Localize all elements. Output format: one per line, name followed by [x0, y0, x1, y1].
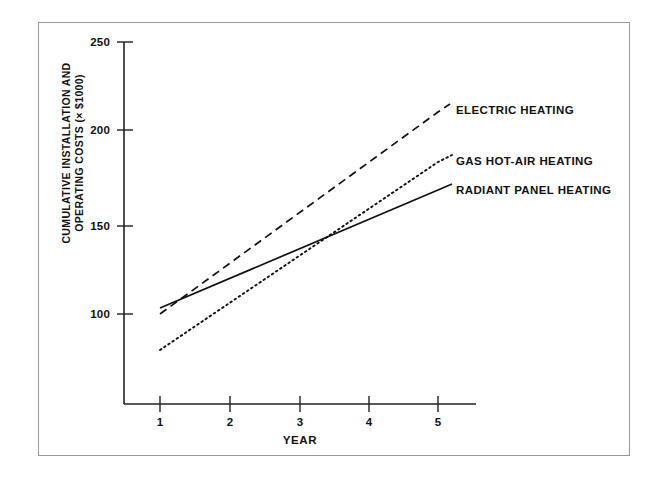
x-tick-label-2: 2	[220, 416, 240, 428]
x-axis-title: YEAR	[250, 434, 350, 446]
x-tick-label-5: 5	[428, 416, 448, 428]
x-tick-label-3: 3	[290, 416, 310, 428]
y-axis-ticks	[117, 42, 133, 314]
series-label-radiant-panel-heating: RADIANT PANEL HEATING	[456, 184, 611, 196]
series-line-electric-heating	[160, 104, 450, 314]
y-axis-title: CUMULATIVE INSTALLATION AND OPERATING CO…	[60, 38, 86, 268]
series-line-radiant-panel-heating	[160, 184, 452, 308]
x-tick-label-4: 4	[359, 416, 379, 428]
x-tick-label-1: 1	[150, 416, 170, 428]
line-chart-plot	[0, 0, 666, 482]
series-line-gas-hot-air-heating	[160, 155, 452, 350]
y-axis-title-line-2: OPERATING COSTS (× $1000)	[73, 38, 86, 268]
chart-page: 250 200 150 100 1 2 3 4 5 YEAR CUMULATIV…	[0, 0, 666, 482]
series-label-electric-heating: ELECTRIC HEATING	[456, 104, 574, 116]
y-tick-label-100: 100	[70, 308, 110, 320]
series-label-gas-hot-air-heating: GAS HOT-AIR HEATING	[456, 155, 593, 167]
y-axis-title-line-1: CUMULATIVE INSTALLATION AND	[60, 38, 73, 268]
